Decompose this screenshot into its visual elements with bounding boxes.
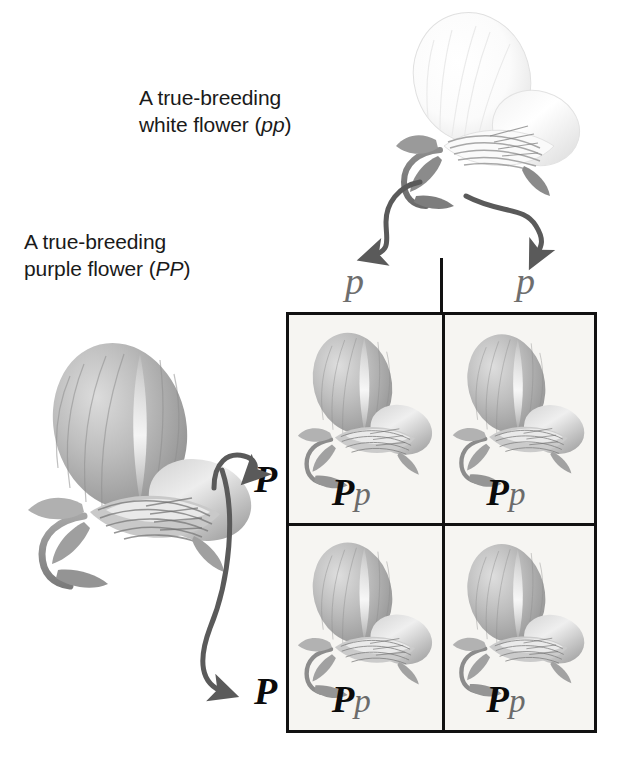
purple-parent-label-line2-suffix: )	[183, 257, 190, 280]
punnett-cell-1-2[interactable]: Pp	[442, 315, 595, 523]
punnett-cell-genotype: Pp	[332, 474, 371, 511]
pea-flower-purple-icon	[14, 330, 272, 595]
genotype-recessive: p	[354, 683, 371, 719]
pea-flower-white-icon	[378, 6, 610, 211]
white-parent-label-line1: A true-breeding	[139, 86, 281, 109]
genotype-dominant: P	[332, 679, 355, 720]
punnett-cell-genotype: Pp	[486, 681, 525, 718]
gamete-left-2: P	[254, 672, 277, 710]
purple-parent-label-line2-prefix: purple flower (	[24, 257, 156, 280]
curved-arrow-icon	[372, 182, 420, 256]
genotype-recessive: p	[509, 476, 526, 512]
purple-parent-label: A true-breeding purple flower (PP)	[24, 228, 190, 282]
white-parent-genotype: pp	[261, 113, 284, 136]
genotype-dominant: P	[332, 472, 355, 513]
punnett-cell-genotype: Pp	[332, 681, 371, 718]
genotype-dominant: P	[486, 472, 509, 513]
genotype-recessive: p	[354, 476, 371, 512]
grid-column-divider-stub	[440, 258, 443, 314]
punnett-cell-1-1[interactable]: Pp	[289, 315, 442, 523]
punnett-cell-2-1[interactable]: Pp	[289, 523, 442, 731]
white-parent-label-line2-suffix: )	[284, 113, 291, 136]
gamete-top-2: p	[516, 262, 535, 300]
gamete-top-1: p	[345, 262, 364, 300]
gamete-left-1: P	[254, 460, 277, 498]
curved-arrow-icon	[466, 196, 541, 256]
purple-parent-label-line1: A true-breeding	[24, 230, 166, 253]
punnett-grid: Pp	[286, 312, 597, 733]
genotype-recessive: p	[509, 683, 526, 719]
purple-parent-genotype: PP	[156, 257, 184, 280]
punnett-cell-genotype: Pp	[486, 474, 525, 511]
white-parent-label-line2-prefix: white flower (	[139, 113, 261, 136]
punnett-cell-2-2[interactable]: Pp	[442, 523, 595, 731]
white-parent-label: A true-breeding white flower (pp)	[139, 84, 291, 138]
punnett-square-figure: A true-breeding white flower (pp) A true…	[0, 0, 629, 769]
curved-arrow-icon	[214, 455, 255, 488]
genotype-dominant: P	[486, 679, 509, 720]
curved-arrow-icon	[203, 470, 230, 692]
